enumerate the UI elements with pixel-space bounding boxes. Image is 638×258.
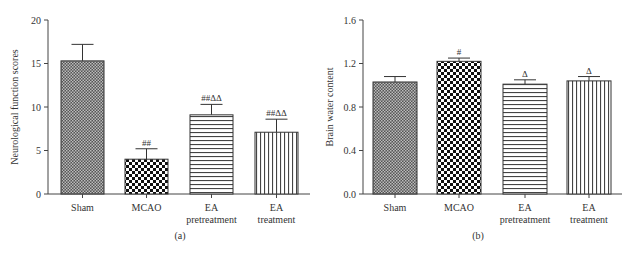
significance-marker: #: [457, 47, 462, 57]
bar-rect: [503, 84, 547, 194]
panel-label: (b): [472, 230, 484, 242]
bar-sham: Sham: [61, 44, 104, 213]
x-category-label: treatment: [258, 214, 296, 225]
bar-sham: Sham: [373, 77, 417, 213]
x-category-label: Sham: [71, 202, 94, 213]
figure: 05101520Neurological function scoresSham…: [0, 0, 638, 258]
y-tick-label: 5: [36, 145, 41, 156]
bar-rect: [437, 61, 481, 194]
chart-panel-a: 05101520Neurological function scoresSham…: [9, 15, 310, 243]
y-tick-label: 0.0: [344, 189, 357, 200]
bar-rect: [255, 132, 298, 194]
bar-rect: [567, 81, 611, 194]
x-category-label: Sham: [384, 202, 407, 213]
chart-panel-b: 0.00.40.81.21.6Brain water contentSham#M…: [324, 15, 622, 243]
bar-ea-pretreatment: ΔEApretreatment: [500, 69, 551, 225]
significance-marker: ##ΔΔ: [266, 108, 287, 118]
significance-marker: ##ΔΔ: [201, 93, 222, 103]
significance-marker: ##: [142, 138, 152, 148]
x-category-label: EA: [582, 202, 596, 213]
x-category-label: pretreatment: [500, 214, 551, 225]
bar-rect: [61, 61, 104, 194]
bar-ea-pretreatment: ##ΔΔEApretreatment: [186, 93, 237, 225]
y-tick-label: 1.6: [344, 15, 357, 26]
x-category-label: EA: [518, 202, 532, 213]
x-category-label: pretreatment: [186, 214, 237, 225]
y-axis-label: Neurological function scores: [9, 49, 20, 165]
y-tick-label: 20: [31, 15, 41, 26]
bar-ea-treatment: ΔEAtreatment: [567, 66, 611, 225]
significance-marker: Δ: [586, 66, 592, 76]
bar-rect: [125, 159, 168, 194]
y-tick-label: 1.2: [344, 58, 357, 69]
bar-rect: [190, 115, 233, 194]
x-category-label: EA: [205, 202, 219, 213]
x-category-label: treatment: [570, 214, 608, 225]
y-tick-label: 0.4: [344, 145, 357, 156]
panel-label: (a): [174, 230, 185, 242]
y-tick-label: 0: [36, 189, 41, 200]
bar-mcao: ##MCAO: [125, 138, 168, 213]
y-tick-label: 10: [31, 102, 41, 113]
x-category-label: MCAO: [131, 202, 161, 213]
y-axis-label: Brain water content: [324, 67, 335, 146]
x-category-label: EA: [270, 202, 284, 213]
bar-mcao: #MCAO: [437, 47, 481, 213]
y-tick-label: 0.8: [344, 102, 357, 113]
bar-ea-treatment: ##ΔΔEAtreatment: [255, 108, 298, 225]
significance-marker: Δ: [522, 69, 528, 79]
y-tick-label: 15: [31, 58, 41, 69]
x-category-label: MCAO: [444, 202, 474, 213]
bar-rect: [373, 82, 417, 194]
